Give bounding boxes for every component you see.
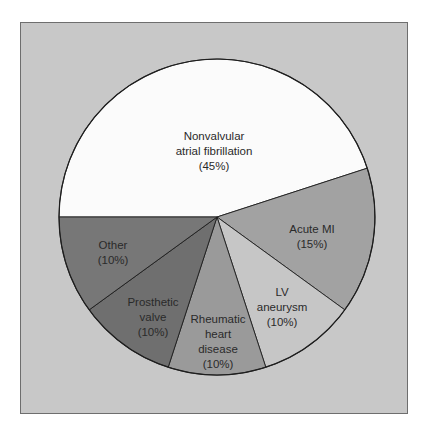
slice-label-rheumatic-heart-disease: Rheumatic heart disease (10%) bbox=[191, 312, 246, 372]
slice-label-other: Other (10%) bbox=[98, 238, 129, 268]
slice-label-nonvalvular-af: Nonvalvular atrial fibrillation (45%) bbox=[176, 129, 253, 174]
slice-label-lv-aneurysm: LV aneurysm (10%) bbox=[257, 285, 308, 330]
slice-label-acute-mi: Acute MI (15%) bbox=[289, 222, 334, 252]
slice-label-prosthetic-valve: Prosthetic valve (10%) bbox=[127, 295, 178, 340]
